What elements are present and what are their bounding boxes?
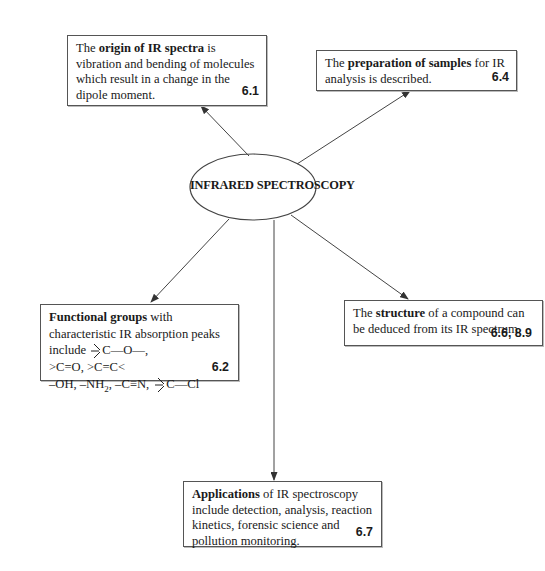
preparation-keyword: preparation of samples [348,56,472,70]
nitrile-formula: , –C≡N, [109,377,149,391]
applications-section-ref: 6.7 [356,525,373,541]
ether-formula: C—O—, [102,343,148,357]
arrow-to-structure [291,215,408,299]
preparation-box: The preparation of samples for IR analys… [316,50,517,91]
functional-groups-keyword: Functional groups [49,310,147,324]
tetrahedral-carbon-bond-icon [154,377,166,393]
preparation-section-ref: 6.4 [492,70,509,86]
origin-box: The origin of IR spectra is vibration an… [67,35,267,106]
applications-keyword: Applications [192,487,260,501]
chloroalkane-formula: C—Cl [166,377,199,391]
arrow-to-origin [201,106,249,156]
applications-box: Applications of IR spectroscopy include … [183,481,382,547]
structure-keyword: structure [376,306,425,320]
hydroxyl-amine-formulas: –OH, –NH [49,377,104,391]
center-title: INFRARED SPECTROSCOPY [190,178,316,193]
tetrahedral-carbon-bond-icon [90,343,102,359]
structure-section-ref: 6.6, 8.9 [491,326,532,342]
origin-section-ref: 6.1 [242,84,259,100]
functional-groups-section-ref: 6.2 [212,359,229,376]
preparation-text-pre: The [325,56,348,70]
arrow-to-functional-groups [151,219,229,302]
structure-box: The structure of a compound can be deduc… [344,300,543,346]
structure-text-pre: The [353,306,376,320]
origin-keyword: origin of IR spectra [99,41,204,55]
functional-groups-box: Functional groups with characteristic IR… [40,304,239,381]
arrow-to-preparation [297,91,410,164]
origin-text-pre: The [76,41,99,55]
carbonyl-alkene-formulas: >C=O, >C=C< [49,359,231,376]
